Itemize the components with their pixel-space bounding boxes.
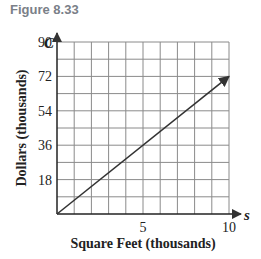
x-tick-label: 5 bbox=[140, 220, 147, 235]
y-tick-label: 36 bbox=[38, 138, 52, 153]
chart: 1836547290510 C s Square Feet (thousands… bbox=[0, 0, 261, 259]
x-axis-variable: s bbox=[243, 207, 250, 223]
y-tick-label: 54 bbox=[38, 104, 52, 119]
y-tick-label: 18 bbox=[38, 173, 52, 188]
axes bbox=[57, 33, 241, 214]
y-tick-label: 72 bbox=[38, 69, 52, 84]
grid-lines bbox=[57, 42, 229, 214]
x-tick-label: 10 bbox=[222, 220, 236, 235]
y-axis-title: Dollars (thousands) bbox=[14, 69, 30, 186]
x-axis-title: Square Feet (thousands) bbox=[70, 236, 216, 252]
y-axis-variable: C bbox=[44, 35, 55, 51]
